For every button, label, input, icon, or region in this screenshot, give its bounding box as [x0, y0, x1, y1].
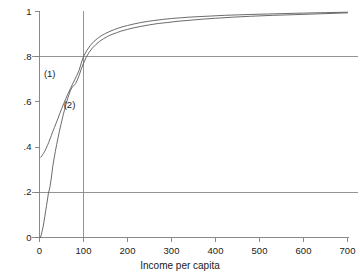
series-line-2: [40, 13, 347, 238]
data-series-group: [40, 12, 347, 237]
axis-ticks-group: [35, 12, 348, 243]
axes-group: [32, 11, 349, 238]
x-tick-label: 400: [196, 246, 236, 256]
y-tick-label: .4: [4, 142, 32, 152]
series-line-1: [41, 12, 348, 157]
y-tick-label: .6: [4, 97, 32, 107]
y-tick-label: .2: [4, 187, 32, 197]
chart-container: 0.2.4.6.81 0100200300400500600700 (1)(2)…: [0, 0, 360, 274]
curve-1-label: (1): [44, 69, 56, 79]
x-tick-label: 300: [152, 246, 192, 256]
curve-2-label: (2): [64, 100, 76, 110]
x-axis-title: Income per capita: [0, 261, 360, 271]
x-tick-label: 500: [240, 246, 280, 256]
plot-area: [0, 0, 360, 274]
x-tick-label: 0: [20, 246, 60, 256]
y-tick-label: .8: [4, 52, 32, 62]
x-tick-label: 100: [64, 246, 104, 256]
x-tick-label: 200: [108, 246, 148, 256]
x-tick-label: 700: [328, 246, 360, 256]
reference-lines-group: [32, 11, 359, 238]
y-tick-label: 1: [4, 7, 32, 17]
x-tick-label: 600: [284, 246, 324, 256]
y-tick-label: 0: [4, 233, 32, 243]
